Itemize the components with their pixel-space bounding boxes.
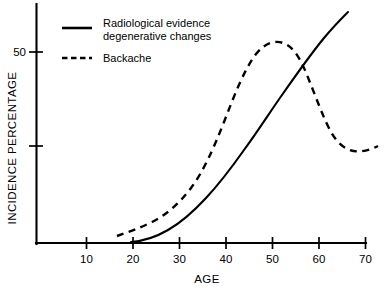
x-tick-label-50: 50 [266, 253, 279, 265]
legend-label-backache: Backache [103, 52, 151, 64]
y-tick-label-50: 50 [13, 46, 26, 58]
x-tick-label-30: 30 [173, 253, 186, 265]
legend-label-radiological-line2: degenerative changes [103, 30, 212, 42]
legend-label-radiological-line1: Radiological evidence [103, 17, 210, 29]
series-line-backache [117, 42, 378, 236]
page-edge-artifact [252, 276, 389, 286]
legend: Radiological evidence degenerative chang… [62, 17, 212, 64]
x-tick-label-70: 70 [359, 253, 372, 265]
x-tick-label-40: 40 [220, 253, 233, 265]
x-tick-label-10: 10 [80, 253, 93, 265]
chart-figure: 50 10 20 30 40 50 60 70 AGE INCIDENCE PE… [0, 0, 389, 288]
x-tick-label-60: 60 [313, 253, 326, 265]
x-tick-label-20: 20 [127, 253, 140, 265]
series-line-radiological [131, 12, 348, 242]
data-series-group [117, 12, 378, 242]
x-axis-title: AGE [194, 273, 220, 285]
x-tick-group: 10 20 30 40 50 60 70 [80, 237, 372, 265]
y-axis-title: INCIDENCE PERCENTAGE [6, 72, 18, 225]
line-chart-canvas: 50 10 20 30 40 50 60 70 AGE INCIDENCE PE… [0, 0, 389, 288]
